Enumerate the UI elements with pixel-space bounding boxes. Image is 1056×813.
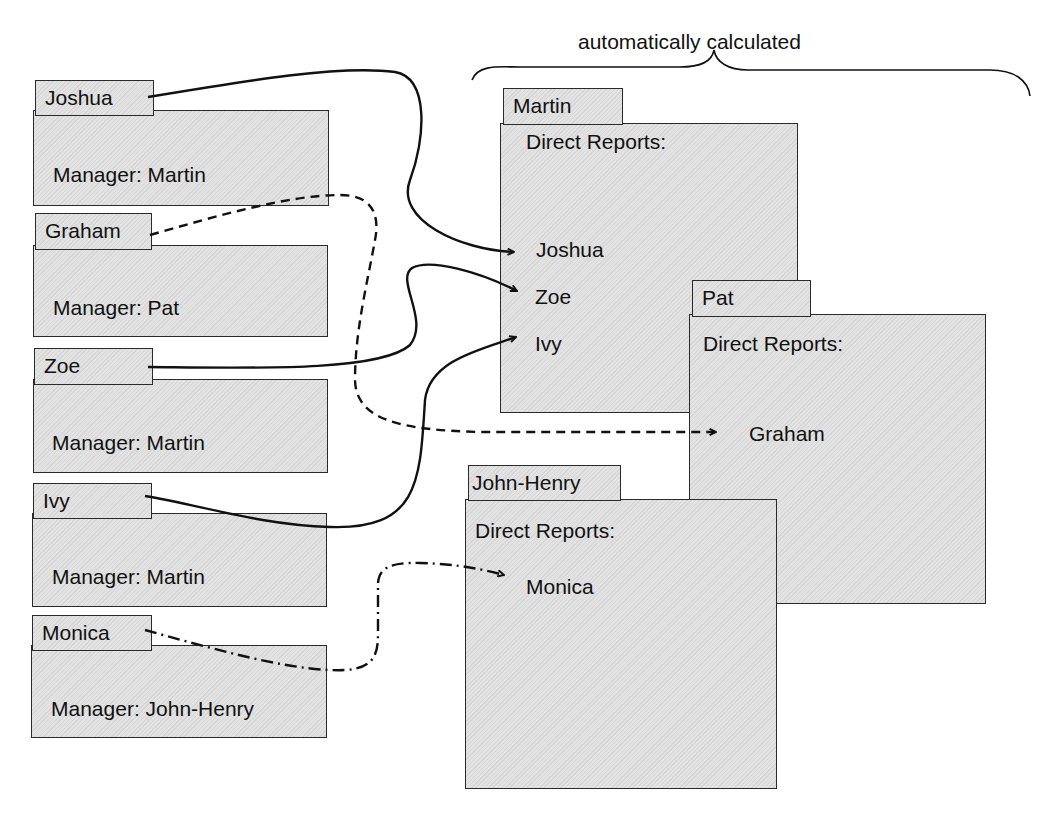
employee-manager-graham: Manager: Pat bbox=[53, 296, 179, 320]
employee-manager-monica: Manager: John-Henry bbox=[51, 697, 254, 721]
employee-card-zoe[interactable] bbox=[33, 379, 328, 473]
employee-card-ivy[interactable] bbox=[32, 513, 327, 607]
employee-tab-graham[interactable]: Graham bbox=[35, 213, 152, 250]
report-item-graham: Graham bbox=[749, 422, 825, 446]
manager-reports-heading-pat: Direct Reports: bbox=[703, 332, 843, 356]
manager-reports-heading-martin: Direct Reports: bbox=[526, 130, 666, 154]
report-item-ivy: Ivy bbox=[535, 332, 562, 356]
report-item-monica: Monica bbox=[526, 575, 594, 599]
employee-manager-joshua: Manager: Martin bbox=[53, 163, 206, 187]
manager-reports-heading-john-henry: Direct Reports: bbox=[475, 519, 615, 543]
manager-tab-pat[interactable]: Pat bbox=[692, 280, 811, 317]
manager-tab-martin[interactable]: Martin bbox=[503, 88, 623, 125]
employee-manager-ivy: Manager: Martin bbox=[52, 565, 205, 589]
employee-card-graham[interactable] bbox=[33, 245, 328, 337]
automatically-calculated-label: automatically calculated bbox=[578, 30, 801, 54]
report-item-joshua: Joshua bbox=[536, 238, 604, 262]
employee-card-monica[interactable] bbox=[31, 645, 327, 738]
manager-tab-john-henry[interactable]: John-Henry bbox=[468, 465, 621, 501]
employee-tab-ivy[interactable]: Ivy bbox=[33, 483, 152, 519]
employee-card-joshua[interactable] bbox=[33, 110, 329, 206]
report-item-zoe: Zoe bbox=[535, 285, 571, 309]
employee-tab-zoe[interactable]: Zoe bbox=[34, 348, 153, 385]
employee-tab-monica[interactable]: Monica bbox=[32, 615, 152, 651]
employee-tab-joshua[interactable]: Joshua bbox=[35, 80, 154, 116]
employee-manager-zoe: Manager: Martin bbox=[52, 431, 205, 455]
